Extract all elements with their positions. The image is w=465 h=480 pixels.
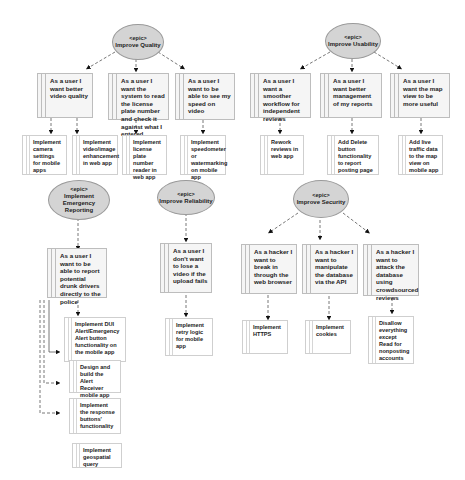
epic-improve-security[interactable]: <epic> Improve Security <box>293 180 349 218</box>
story-hacker-browser[interactable]: As a hacker I want to break in through t… <box>241 244 297 294</box>
epic-improve-usability[interactable]: <epic> Improve Usability <box>325 23 381 59</box>
epic-title: Improve Quality <box>115 42 160 49</box>
epic-tag: <epic> <box>312 192 329 199</box>
epic-tag: <epic> <box>129 35 146 42</box>
epic-tag: <epic> <box>344 34 361 41</box>
epic-title: Improve Usability <box>328 41 378 48</box>
task-cookies[interactable]: Implement cookies <box>305 320 351 354</box>
task-speedometer[interactable]: Implement speedometer or watermarking on… <box>180 135 226 175</box>
task-disallow[interactable]: Disallow everything except Read for nonp… <box>368 316 414 364</box>
story-better-video[interactable]: As a user I want better video quality <box>37 73 93 118</box>
story-smoother-workflow[interactable]: As a user I want a smoother workflow for… <box>250 73 311 118</box>
task-rework-reviews[interactable]: Rework reviews in web app <box>260 135 304 175</box>
epic-title: Implement Emergency Reporting <box>49 193 109 214</box>
story-see-speed[interactable]: As a user I want to be able to see my sp… <box>175 73 235 120</box>
epic-tag: <epic> <box>70 186 87 193</box>
task-response-buttons[interactable]: Implement the response buttons' function… <box>69 398 121 434</box>
epic-emergency-reporting[interactable]: <epic> Implement Emergency Reporting <box>48 180 110 220</box>
task-geospatial[interactable]: Implement geospatial query <box>72 443 122 468</box>
epic-improve-reliability[interactable]: <epic> Improve Reliability <box>157 180 215 215</box>
story-lose-video[interactable]: As a user I don't want to lose a video i… <box>160 243 212 293</box>
task-https[interactable]: Implement HTTPS <box>242 320 288 354</box>
story-license-plate[interactable]: As a user I want the system to read the … <box>108 73 169 120</box>
task-plate-reader[interactable]: Implement license plate number reader in… <box>122 135 167 175</box>
task-video-enhancement[interactable]: Implement video/image enhancement in web… <box>72 135 118 175</box>
epic-tag: <epic> <box>177 191 194 198</box>
task-retry-logic[interactable]: Implement retry logic for mobile app <box>165 318 213 356</box>
task-alert-receiver[interactable]: Design and build the Alert Receiver mobi… <box>69 360 121 393</box>
story-hacker-api[interactable]: As a hacker I want to manipulate the dat… <box>302 244 358 294</box>
epic-improve-quality[interactable]: <epic> Improve Quality <box>112 24 164 60</box>
epic-title: Improve Security <box>297 199 346 206</box>
epic-title: Improve Reliability <box>159 198 212 205</box>
task-dui-alert[interactable]: Implement DUI Alert/Emergency Alert butt… <box>64 317 126 362</box>
task-camera-settings[interactable]: Implement camera settings for mobile app… <box>22 135 67 175</box>
task-delete-button[interactable]: Add Delete button functionality to repor… <box>327 135 379 175</box>
task-live-traffic[interactable]: Add live traffic data to the map view on… <box>398 135 443 175</box>
story-manage-reports[interactable]: As a user I want better management of my… <box>320 73 382 118</box>
story-report-drunk-drivers[interactable]: As a user I want to be able to report po… <box>47 248 107 298</box>
story-map-view[interactable]: As a user I want the map view to be more… <box>390 73 450 118</box>
story-hacker-crowdsourced[interactable]: As a hacker I want to attack the databas… <box>363 244 419 296</box>
